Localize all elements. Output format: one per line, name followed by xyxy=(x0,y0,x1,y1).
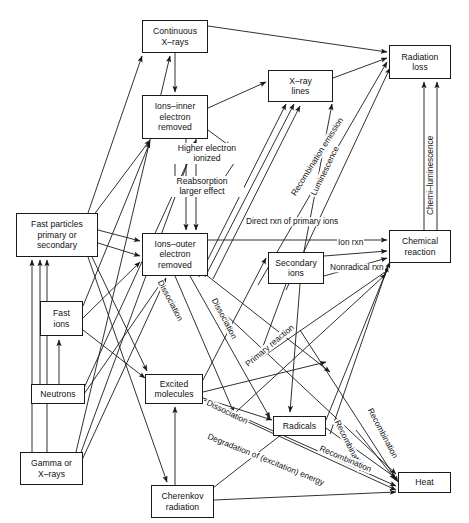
edge-label-direct-rxn: Direct rxn of primary ions xyxy=(245,217,339,226)
node-label: X–ray lines xyxy=(287,76,314,97)
node-chemical-reaction[interactable]: Chemical reaction xyxy=(389,230,451,263)
node-heat[interactable]: Heat xyxy=(398,472,451,493)
node-continuous-xrays[interactable]: Continuous X–rays xyxy=(142,20,208,53)
label-higher-electron-ionized: Higher electron ionized xyxy=(163,143,251,164)
node-label: Radicals xyxy=(281,421,318,431)
node-label: Fast particles primary or secondary xyxy=(29,219,85,250)
node-fast-ions[interactable]: Fast ions xyxy=(40,301,83,336)
label-reabsorption-larger-effect: Reabsorption larger effect xyxy=(160,176,244,197)
node-label: Gamma or X–rays xyxy=(29,458,74,479)
node-label: Heat xyxy=(413,477,435,487)
node-label: Continuous X–rays xyxy=(151,26,199,47)
edge-label-ion-rxn: Ion rxn xyxy=(337,238,364,247)
node-label: Fast ions xyxy=(51,308,72,329)
node-neutrons[interactable]: Neutrons xyxy=(31,384,85,404)
diagram-canvas: Continuous X–rays Ions–inner electron re… xyxy=(0,0,469,523)
node-cherenkov-radiation[interactable]: Cherenkov radiation xyxy=(151,485,214,518)
node-radiation-loss[interactable]: Radiation loss xyxy=(389,45,451,79)
node-xray-lines[interactable]: X–ray lines xyxy=(268,70,333,102)
node-label: Secondary ions xyxy=(273,258,319,279)
node-label: Excited molecules xyxy=(152,379,195,400)
node-label: Ions–outer electron removed xyxy=(152,239,197,270)
node-label: Cherenkov radiation xyxy=(159,491,205,512)
node-label: Ions–inner electron removed xyxy=(153,101,198,132)
node-excited-molecules[interactable]: Excited molecules xyxy=(145,374,203,404)
node-label: Chemical reaction xyxy=(400,236,440,257)
node-label: Radiation loss xyxy=(400,52,441,73)
node-secondary-ions[interactable]: Secondary ions xyxy=(268,252,324,284)
node-ions-inner-electron-removed[interactable]: Ions–inner electron removed xyxy=(142,95,208,139)
edge-label-chemi-luminescence: Chemi–luminescence xyxy=(426,135,435,216)
edge-label-nonradical-rxn: Nonradical rxn xyxy=(329,263,385,272)
node-label: Neutrons xyxy=(38,389,77,399)
node-gamma-or-xrays[interactable]: Gamma or X–rays xyxy=(20,452,83,485)
node-ions-outer-electron-removed[interactable]: Ions–outer electron removed xyxy=(142,233,208,276)
node-fast-particles[interactable]: Fast particles primary or secondary xyxy=(16,213,98,257)
node-radicals[interactable]: Radicals xyxy=(273,416,326,436)
